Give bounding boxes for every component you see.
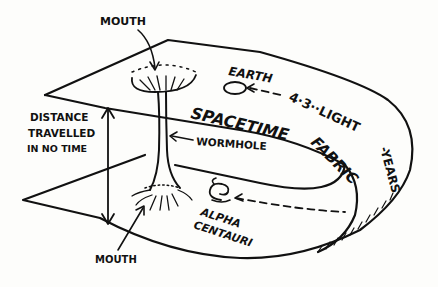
distance-label-3: IN NO TIME — [27, 143, 87, 154]
alpha-centauri-spiral-icon — [210, 178, 230, 202]
fabric-label: FABRIC — [307, 133, 362, 188]
mouth-top-label: MOUTH — [100, 15, 146, 28]
wormhole-diagram: MOUTH MOUTH DISTANCE TRAVELLED IN NO TIM… — [0, 0, 438, 287]
top-mouth-pointer — [138, 30, 159, 70]
light-years-label-1: 4·3··LIGHT — [287, 89, 363, 135]
distance-label-1: DISTANCE — [30, 111, 88, 123]
light-years-label-2: -YEARS — [377, 145, 403, 194]
wormhole-pointer — [170, 132, 193, 141]
mouth-bottom-label: MOUTH — [95, 254, 137, 265]
wormhole-tube — [132, 92, 192, 210]
distance-label-2: TRAVELLED — [28, 127, 96, 139]
top-mouth-funnel — [132, 65, 196, 92]
earth-icon — [224, 82, 246, 94]
wormhole-label: WORMHOLE — [196, 135, 267, 152]
